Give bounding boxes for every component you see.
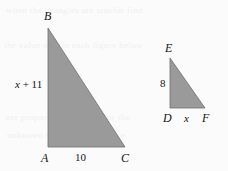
side-label-large-left-leg-rest: + 11	[20, 78, 42, 90]
large-triangle-shape	[48, 28, 125, 147]
side-label-small-base: x	[184, 113, 189, 124]
vertex-label-B: B	[44, 10, 51, 22]
side-label-large-base: 10	[75, 152, 86, 163]
vertex-label-E: E	[165, 42, 172, 54]
vertex-label-A: A	[41, 152, 48, 164]
side-label-small-left-leg: 8	[160, 78, 166, 89]
small-triangle-shape	[170, 58, 205, 108]
side-label-large-left-leg: x + 11	[15, 79, 42, 90]
vertex-label-D: D	[163, 112, 172, 124]
vertex-label-F: F	[202, 112, 209, 124]
vertex-label-C: C	[121, 152, 129, 164]
